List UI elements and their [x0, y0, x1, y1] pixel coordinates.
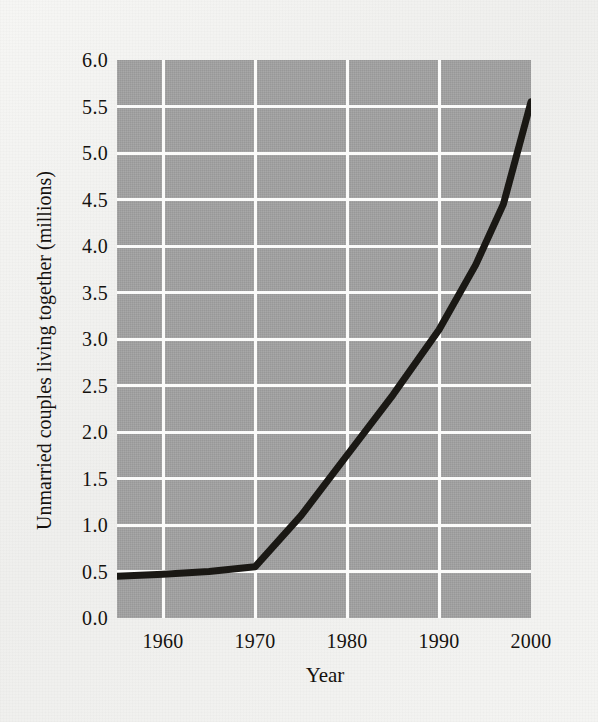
y-axis-title: Unmarried couples living together (milli…: [33, 101, 56, 601]
x-tick-label: 2000: [476, 630, 586, 652]
x-axis-title: Year: [0, 663, 598, 688]
figure-root: 0.00.51.01.52.02.53.03.54.04.55.05.56.0 …: [0, 0, 598, 722]
x-axis-tick-labels: 19601970198019902000: [0, 0, 598, 722]
